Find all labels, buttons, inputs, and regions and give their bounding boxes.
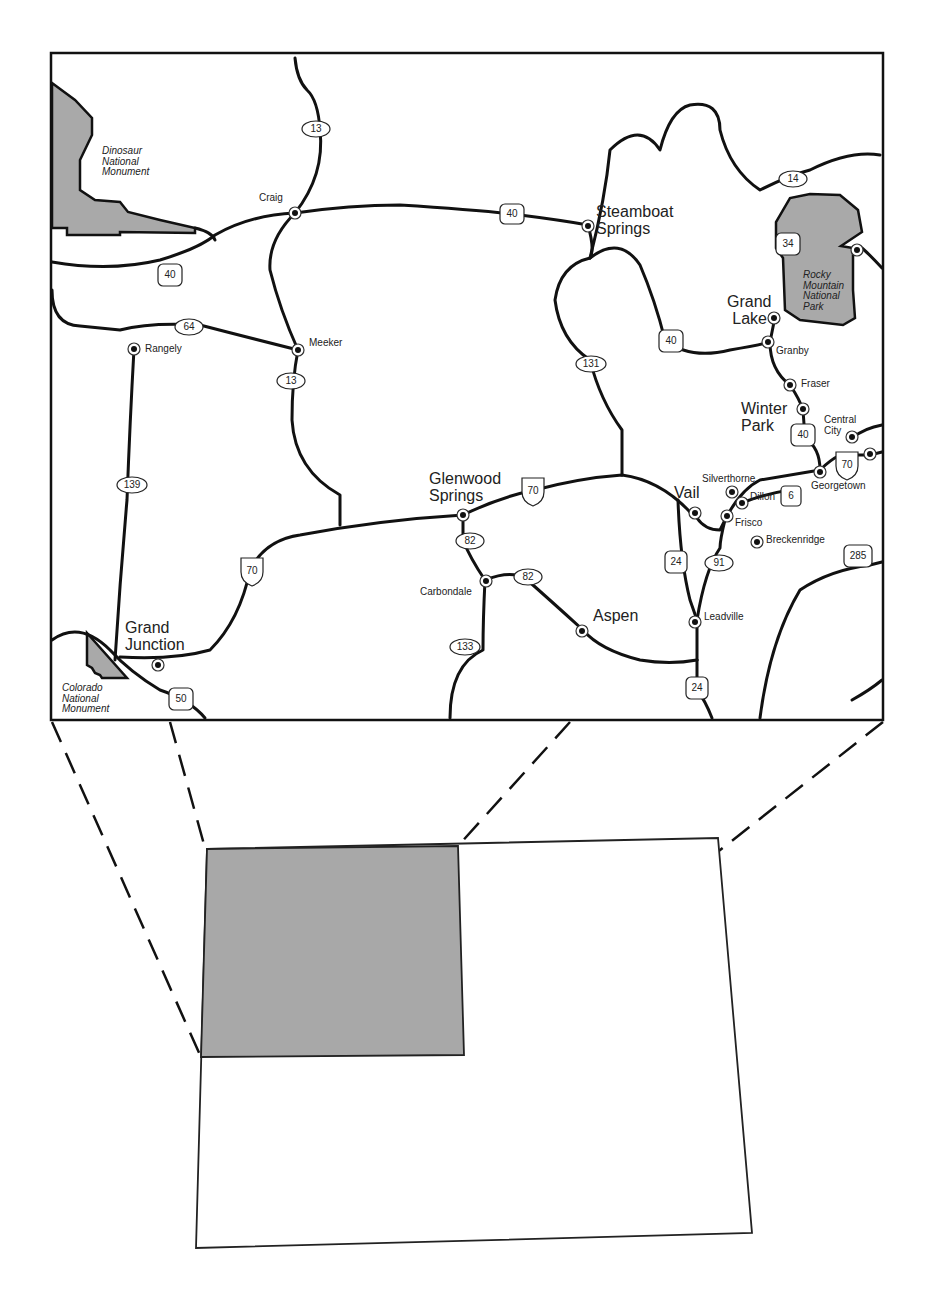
map-frame [51, 53, 883, 720]
map-figure [0, 0, 936, 1293]
rocky-mountain-park-area [776, 194, 862, 325]
connector-line [458, 722, 570, 846]
connector-line [52, 722, 200, 1055]
highlighted-region [201, 846, 464, 1057]
connector-line [170, 722, 205, 848]
